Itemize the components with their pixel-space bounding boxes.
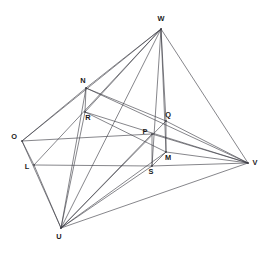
edge-layer	[22, 29, 248, 228]
vertex-dot-w	[160, 28, 162, 30]
vertex-dot-u	[60, 227, 62, 229]
geometry-diagram: WNROLQPMSVU	[0, 0, 269, 256]
edge-l-u	[34, 165, 61, 228]
vertex-dot-layer	[21, 28, 249, 229]
vertex-label-m: M	[165, 153, 171, 162]
vertex-dot-p	[151, 133, 153, 135]
edge-u-n	[61, 88, 86, 228]
vertex-label-p: P	[143, 127, 148, 136]
vertex-label-l: L	[25, 162, 30, 171]
vertex-label-o: O	[11, 132, 17, 141]
vertex-label-u: U	[56, 232, 61, 241]
vertex-label-n: N	[80, 76, 85, 85]
edge-w-o	[22, 29, 161, 141]
edge-s-m	[152, 152, 166, 166]
edge-o-n	[22, 88, 86, 141]
edge-u-r	[61, 112, 85, 228]
edge-w-n	[86, 29, 161, 88]
edge-l-s	[34, 165, 152, 166]
vertex-dot-n	[85, 87, 87, 89]
vertex-label-w: W	[158, 14, 165, 23]
vertex-dot-q	[165, 120, 167, 122]
edge-s-v	[152, 163, 248, 166]
edge-u-m	[61, 152, 166, 228]
vertex-label-q: Q	[165, 110, 171, 119]
vertex-label-r: R	[85, 113, 91, 122]
vertex-dot-l	[33, 164, 35, 166]
edge-r-m	[85, 112, 166, 152]
vertex-label-v: V	[253, 158, 258, 167]
edge-w-q	[161, 29, 166, 121]
vertex-dot-o	[21, 140, 23, 142]
edge-o-p	[22, 134, 152, 141]
vertex-label-s: S	[149, 167, 154, 176]
vertex-dot-v	[247, 162, 249, 164]
geometric-figure-canvas: WNROLQPMSVU	[0, 0, 269, 256]
edge-u-s	[61, 166, 152, 228]
